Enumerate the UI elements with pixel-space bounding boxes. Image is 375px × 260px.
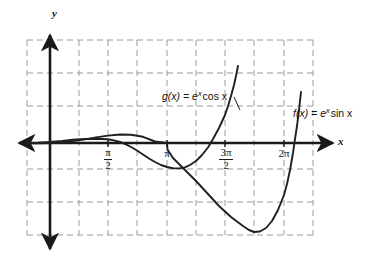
fraction-numerator: 3π xyxy=(219,147,232,158)
curve-label-f-exponent: x xyxy=(326,106,330,115)
curve-label-g-suffix: cos x xyxy=(203,90,228,102)
curve-g-exp-cos xyxy=(27,66,238,168)
curve-label-g: g(x) = ex cos x xyxy=(162,91,227,102)
x-tick-label-3pi-over-2: 3π 2 xyxy=(212,147,240,171)
grid-lines xyxy=(27,40,313,235)
fraction-3pi-over-2: 3π 2 xyxy=(219,147,232,171)
fraction-numerator: π xyxy=(104,147,112,158)
curve-label-f: f(x) = ex sin x xyxy=(293,108,352,119)
g-label-leader-line xyxy=(234,97,240,110)
function-plot xyxy=(0,0,375,260)
x-tick-label-pi-over-2: π 2 xyxy=(98,147,118,171)
y-axis-label: y xyxy=(52,8,57,19)
fraction-pi-over-2: π 2 xyxy=(104,147,112,171)
x-tick-label-2pi: 2π xyxy=(274,148,294,159)
curve-label-f-mid: (x) = e xyxy=(296,107,326,119)
curve-f-exp-sin xyxy=(27,92,301,232)
fraction-denominator: 2 xyxy=(104,160,112,171)
curve-label-g-mid: (x) = e xyxy=(168,90,198,102)
curve-label-f-suffix: sin x xyxy=(331,107,353,119)
fraction-denominator: 2 xyxy=(219,160,232,171)
x-axis-label: x xyxy=(338,136,344,147)
curve-label-g-exponent: x xyxy=(198,89,202,98)
x-tick-label-pi: π xyxy=(158,148,176,159)
math-figure: y x π 2 π 3π 2 2π g(x) = ex cos x f(x) =… xyxy=(0,0,375,260)
